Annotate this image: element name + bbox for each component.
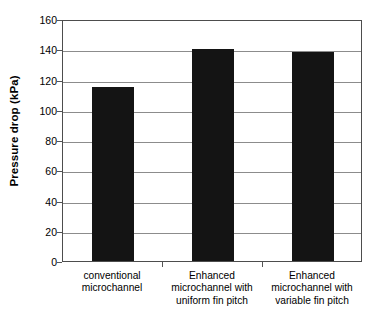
x-axis-category-label: conventionalmicrochannel xyxy=(62,270,162,295)
x-axis-category-label-line: uniform fin pitch xyxy=(162,295,262,307)
x-axis-category-label-line: Enhanced xyxy=(262,270,362,282)
bar xyxy=(292,52,334,261)
y-axis-tick-labels: 160140120100806040200 xyxy=(28,20,57,262)
x-axis-category-label-line: variable fin pitch xyxy=(262,295,362,307)
y-axis-tick-label: 120 xyxy=(28,76,57,86)
x-axis-category-ticks xyxy=(62,262,362,267)
y-axis-title: Pressure drop (kPa) xyxy=(0,0,28,262)
y-axis-tick-label: 100 xyxy=(28,106,57,116)
y-axis-tick-label: 60 xyxy=(28,166,57,176)
bar xyxy=(192,49,234,261)
y-axis-tick-label: 80 xyxy=(28,136,57,146)
bar xyxy=(92,87,134,261)
y-axis-tick-label: 140 xyxy=(28,45,57,55)
x-axis-category-label: Enhancedmicrochannel withuniform fin pit… xyxy=(162,270,262,307)
x-axis-category-label: Enhancedmicrochannel withvariable fin pi… xyxy=(262,270,362,307)
y-axis-tick-label: 0 xyxy=(28,257,57,267)
y-axis-tick-label: 160 xyxy=(28,15,57,25)
bar-chart-figure: Pressure drop (kPa) 16014012010080604020… xyxy=(0,0,379,329)
x-axis-category-tick xyxy=(262,262,263,267)
y-axis-tick-label: 20 xyxy=(28,227,57,237)
x-axis-category-label-line: Enhanced xyxy=(162,270,262,282)
y-axis-tick-label: 40 xyxy=(28,197,57,207)
x-axis-tick-labels: conventionalmicrochannelEnhancedmicrocha… xyxy=(62,270,362,328)
x-axis-category-label-line: microchannel xyxy=(62,282,162,294)
x-axis-category-label-line: microchannel with xyxy=(162,282,262,294)
x-axis-category-label-line: microchannel with xyxy=(262,282,362,294)
y-axis-title-text: Pressure drop (kPa) xyxy=(8,75,20,186)
x-axis-category-label-line: conventional xyxy=(62,270,162,282)
plot-area xyxy=(62,20,362,262)
x-axis-category-tick xyxy=(162,262,163,267)
